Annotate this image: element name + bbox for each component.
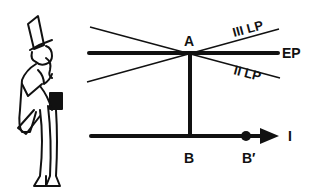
arrow-right-icon bbox=[260, 128, 279, 144]
diagram-canvas: A EP III LP II LP B B′ I bbox=[0, 0, 317, 196]
label-ii-lp: II LP bbox=[232, 62, 263, 84]
label-ep: EP bbox=[282, 45, 301, 61]
label-b: B bbox=[184, 150, 194, 166]
label-b-prime: B′ bbox=[242, 150, 256, 166]
gentleman-figure bbox=[18, 16, 62, 186]
label-a: A bbox=[184, 33, 194, 49]
label-i: I bbox=[288, 128, 292, 144]
b-prime-dot bbox=[241, 131, 251, 141]
label-iii-lp: III LP bbox=[231, 17, 265, 40]
